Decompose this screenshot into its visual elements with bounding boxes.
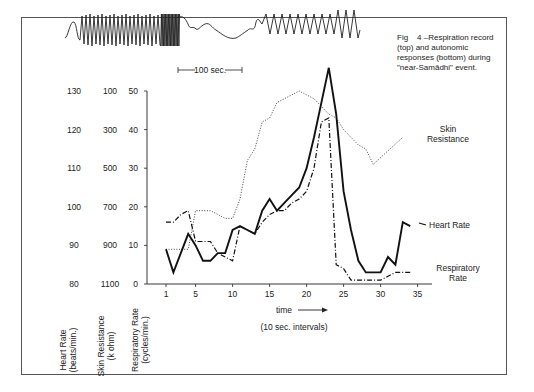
- svg-text:10: 10: [129, 240, 139, 250]
- svg-text:110: 110: [67, 163, 81, 173]
- svg-text:Rate: Rate: [449, 273, 467, 283]
- respiration-trace: [65, 10, 360, 46]
- svg-text:10: 10: [228, 289, 238, 299]
- skin-resistance-line: [166, 91, 403, 249]
- svg-text:20: 20: [302, 289, 312, 299]
- svg-text:100: 100: [103, 86, 117, 96]
- svg-text:30: 30: [129, 163, 139, 173]
- svg-text:20: 20: [129, 202, 139, 212]
- svg-text:900: 900: [103, 240, 117, 250]
- respiration-scale-bar: 100 sec.: [178, 65, 242, 75]
- svg-text:5: 5: [193, 289, 198, 299]
- svg-text:Respiratory: Respiratory: [436, 263, 480, 273]
- svg-text:40: 40: [129, 125, 139, 135]
- svg-text:Heart Rate: Heart Rate: [429, 220, 470, 230]
- heart-rate-line: [166, 68, 410, 273]
- svg-text:90: 90: [69, 240, 79, 250]
- svg-text:(10 sec. intervals): (10 sec. intervals): [260, 322, 327, 332]
- respiratory-rate-axis-title: Respiratory Rate (cycles/min.): [130, 308, 150, 372]
- legend-heart-rate: Heart Rate: [419, 220, 470, 230]
- x-axis-title: time (10 sec. intervals): [260, 305, 328, 332]
- svg-text:15: 15: [265, 289, 275, 299]
- svg-text:300: 300: [103, 125, 117, 135]
- skin-resistance-axis-title: Skin Resistance (k ohm): [96, 315, 116, 376]
- svg-text:(cycles/min.): (cycles/min.): [140, 316, 150, 364]
- svg-text:100: 100: [67, 202, 81, 212]
- svg-text:700: 700: [103, 202, 117, 212]
- svg-text:500: 500: [103, 163, 117, 173]
- svg-text:Skin: Skin: [440, 124, 457, 134]
- svg-text:time: time: [276, 305, 292, 315]
- svg-text:120: 120: [67, 125, 81, 135]
- y-axis-ticks: 1301201101009080100300500700900110050403…: [67, 86, 147, 289]
- svg-text:Resistance: Resistance: [427, 134, 469, 144]
- legend-respiratory-rate: Respiratory Rate: [436, 263, 480, 283]
- x-axis-ticks: 15101520253035: [164, 284, 423, 299]
- scale-bar-label: 100 sec.: [194, 65, 226, 75]
- svg-text:130: 130: [67, 86, 81, 96]
- svg-text:(beats/min.): (beats/min.): [68, 327, 78, 372]
- legend-skin-resistance: Skin Resistance: [427, 124, 469, 144]
- svg-text:Heart Rate: Heart Rate: [58, 329, 68, 370]
- svg-text:25: 25: [339, 289, 349, 299]
- svg-text:1100: 1100: [101, 279, 120, 289]
- svg-text:35: 35: [413, 289, 423, 299]
- heart-rate-axis-title: Heart Rate (beats/min.): [58, 327, 78, 372]
- svg-text:Respiratory Rate: Respiratory Rate: [130, 308, 140, 372]
- svg-text:(k ohm): (k ohm): [106, 331, 116, 360]
- chart-canvas: 100 sec. 1301201101009080100300500700900…: [0, 0, 534, 392]
- svg-text:50: 50: [129, 86, 139, 96]
- svg-text:80: 80: [69, 279, 79, 289]
- svg-text:0: 0: [133, 279, 138, 289]
- svg-text:1: 1: [164, 289, 169, 299]
- svg-text:Skin Resistance: Skin Resistance: [96, 315, 106, 376]
- svg-text:30: 30: [376, 289, 386, 299]
